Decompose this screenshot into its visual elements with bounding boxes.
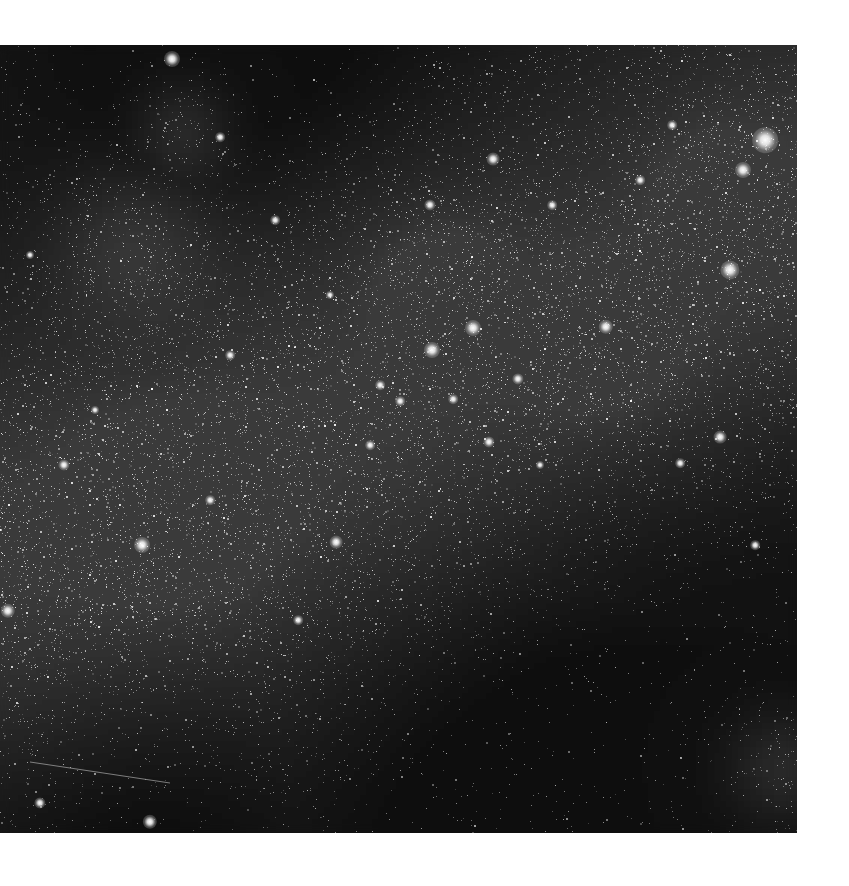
star-field-photo (0, 45, 797, 833)
page (0, 0, 849, 886)
star-field-canvas (0, 45, 797, 833)
